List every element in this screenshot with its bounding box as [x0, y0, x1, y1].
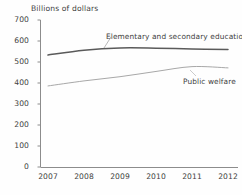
x-axis-tick-label: 2010: [141, 172, 171, 181]
y-axis-tick-label: 600: [5, 36, 29, 45]
annotation-leader-lines: [104, 37, 196, 76]
y-axis-tick-label: 200: [5, 120, 29, 129]
x-axis-tick-label: 2012: [213, 172, 242, 181]
series-label-public-welfare: Public welfare: [183, 77, 236, 86]
y-axis-tick-label: 100: [5, 141, 29, 150]
y-axis-tick-label: 300: [5, 99, 29, 108]
y-axis-tick-label: 700: [5, 15, 29, 24]
leader-line-welfare: [190, 70, 196, 76]
x-axis-tick-label: 2007: [33, 172, 63, 181]
chart-plot-area: [0, 0, 242, 195]
y-axis-tick-label: 0: [5, 162, 29, 171]
y-axis-tick-label: 400: [5, 78, 29, 87]
x-axis-tick-label: 2011: [177, 172, 207, 181]
x-axis-tick-label: 2008: [69, 172, 99, 181]
axis-lines: [41, 20, 239, 168]
x-axis-tick-label: 2009: [105, 172, 135, 181]
y-axis-tick-label: 500: [5, 57, 29, 66]
chart-container: Billions of dollars 01002003004005006007…: [0, 0, 242, 195]
series-label-elementary-secondary-education: Elementary and secondary education: [106, 32, 242, 41]
series-line-elementary-secondary-education: [48, 48, 228, 55]
